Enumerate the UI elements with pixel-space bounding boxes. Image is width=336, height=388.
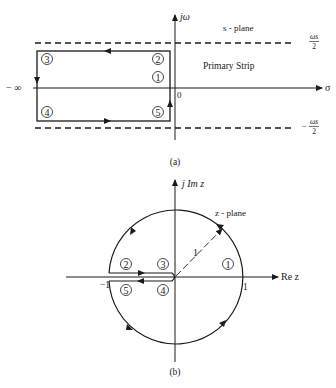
- radius-line: [176, 229, 222, 276]
- keyhole-arrow-upper-icon: [138, 270, 145, 276]
- caption-a: (a): [170, 157, 181, 168]
- unit-left-label: −1: [100, 280, 110, 290]
- svg-text:2: 2: [156, 54, 161, 65]
- svg-text:4: 4: [45, 107, 50, 118]
- svg-text:ωs: ωs: [310, 117, 318, 126]
- circle-arrow-upper-left-icon: [130, 227, 136, 235]
- origin-label: 0: [177, 90, 182, 100]
- re-z-axis-label: Re z: [281, 271, 300, 282]
- contour-arrow-left-icon: [34, 77, 40, 84]
- svg-text:2: 2: [312, 42, 316, 51]
- primary-strip-label: Primary Strip: [203, 61, 255, 71]
- svg-text:1: 1: [226, 259, 231, 270]
- lower-bound-label: − ωs 2: [302, 117, 319, 136]
- sigma-axis-label: σ: [325, 82, 331, 93]
- point-4-marker: 4: [42, 107, 53, 119]
- jw-axis-label: jω: [178, 11, 190, 22]
- point-2-marker: 2: [153, 54, 164, 66]
- svg-text:ωs: ωs: [310, 32, 318, 41]
- svg-text:−: −: [302, 122, 307, 131]
- z-point-2-marker: 2: [121, 259, 132, 271]
- svg-text:4: 4: [161, 285, 166, 296]
- z-point-1-marker: 1: [223, 259, 234, 271]
- z-plane-figure: 1 2 3 1 5 4 j Im z z - plane Re z 1 −1 (…: [66, 178, 300, 378]
- unit-right-label: 1: [243, 282, 248, 292]
- z-point-5-marker: 5: [121, 285, 132, 297]
- minus-infinity-label: − ∞: [6, 82, 21, 93]
- svg-text:5: 5: [124, 285, 129, 296]
- z-point-3-marker: 3: [158, 259, 169, 271]
- point-1-marker: 1: [153, 72, 164, 84]
- keyhole-arrow-lower-icon: [137, 278, 144, 284]
- upper-bound-label: ωs 2: [309, 32, 319, 51]
- primary-strip-contour: [37, 51, 170, 121]
- im-z-axis-label: j Im z: [180, 178, 204, 189]
- svg-text:5: 5: [156, 107, 161, 118]
- contour-arrow-bottom-icon: [104, 118, 111, 124]
- svg-text:2: 2: [124, 259, 129, 270]
- figure-canvas: 3 2 1 4 5 jω s - plane Primary Strip − ∞…: [0, 0, 336, 388]
- z-point-4-marker: 4: [158, 285, 169, 297]
- point-3-marker: 3: [42, 54, 53, 66]
- s-plane-label: s - plane: [223, 23, 254, 33]
- svg-text:3: 3: [161, 259, 166, 270]
- s-plane-figure: 3 2 1 4 5 jω s - plane Primary Strip − ∞…: [6, 11, 331, 168]
- contour-arrow-right-icon: [167, 100, 173, 107]
- svg-text:1: 1: [156, 72, 161, 83]
- point-5-marker: 5: [153, 107, 164, 119]
- svg-text:2: 2: [312, 127, 316, 136]
- contour-arrow-top-icon: [104, 48, 111, 54]
- radius-label: 1: [193, 247, 198, 258]
- caption-b: (b): [169, 367, 180, 378]
- svg-text:3: 3: [45, 54, 50, 65]
- z-plane-label: z - plane: [215, 208, 246, 218]
